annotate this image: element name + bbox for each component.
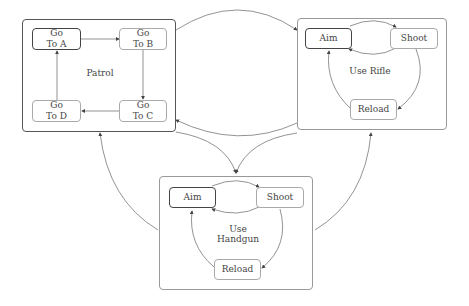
edge-patrol-rifle (176, 10, 297, 30)
state-go-to-d[interactable]: Go To D (32, 100, 81, 122)
state-handgun-shoot[interactable]: Shoot (256, 187, 304, 208)
state-go-to-c[interactable]: Go To C (119, 100, 167, 122)
group-use-rifle-label: Use Rifle (345, 66, 395, 76)
edge-handgun-patrol (100, 133, 158, 230)
state-handgun-aim[interactable]: Aim (169, 187, 216, 208)
group-patrol-label: Patrol (80, 68, 120, 78)
state-rifle-aim[interactable]: Aim (305, 28, 352, 49)
state-handgun-reload[interactable]: Reload (214, 259, 261, 280)
state-go-to-a[interactable]: Go To A (32, 28, 81, 50)
group-use-handgun-label: Use Handgun (208, 224, 268, 244)
edge-handgun-rifle (315, 133, 371, 230)
edge-rifle-patrol (176, 120, 297, 136)
edge-patrol-handgun (176, 132, 236, 173)
state-go-to-b[interactable]: Go To B (119, 28, 167, 50)
state-rifle-reload[interactable]: Reload (350, 99, 397, 120)
edge-rifle-handgun (236, 133, 297, 173)
state-rifle-shoot[interactable]: Shoot (390, 28, 438, 49)
